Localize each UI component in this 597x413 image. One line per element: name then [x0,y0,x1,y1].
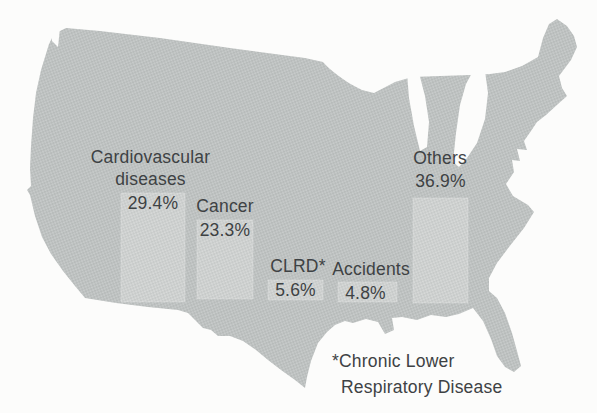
us-map-silhouette [0,0,597,413]
value-accidents-pct: 4.8% [336,282,395,304]
us-outline [27,19,577,388]
value-others-pct: 36.9% [413,170,468,192]
footnote-line: *Chronic Lower [332,351,454,371]
value-cardiovascular-pct: 29.4% [121,192,185,214]
label-others: Others [399,147,481,169]
label-line: Cardiovascular [91,147,211,167]
label-line: diseases [115,169,186,189]
causes-of-death-map-chart: Cardiovascular diseases 29.4% Cancer 23.… [0,0,597,413]
value-cancer-pct: 23.3% [197,219,253,241]
bar-others [413,198,468,303]
footnote-clrd-definition: *Chronic Lower Respiratory Disease [332,348,502,400]
value-clrd-pct: 5.6% [268,279,323,301]
label-cancer: Cancer [183,195,267,217]
label-accidents: Accidents [326,258,416,280]
footnote-line: Respiratory Disease [341,374,502,400]
label-cardiovascular-diseases: Cardiovascular diseases [63,146,238,190]
